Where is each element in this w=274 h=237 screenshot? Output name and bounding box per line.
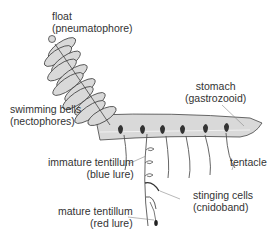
mature-tentillum-label: mature tentillum (red lure) [58,205,133,229]
stomach-label: stomach (gastrozooid) [185,80,246,104]
swimming-bells-label: swimming bells (nectophores) [10,103,81,127]
tentacle-label: tentacle [230,156,267,168]
immature-tentillum-label: immature tentillum (blue lure) [48,156,134,180]
siphonophore-diagram: float (pneumatophore) swimming bells (ne… [0,0,274,237]
red-lure [154,220,158,226]
stinging-cells-label: stinging cells (cnidoband) [193,189,253,213]
tentilla [145,148,159,222]
float-shape [49,36,56,43]
float-label: float (pneumatophore) [52,10,133,34]
